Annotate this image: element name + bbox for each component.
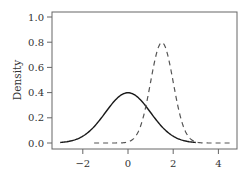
plot-frame [52, 12, 237, 149]
y-tick-label: 0.6 [28, 62, 44, 73]
x-axis: −2024 [75, 149, 221, 169]
x-tick-label: 0 [125, 158, 131, 169]
y-tick-label: 0.8 [28, 37, 44, 48]
y-axis-title: Density [11, 60, 23, 100]
density-chart: 0.00.20.40.60.81.0 −2024 Density [0, 0, 250, 178]
x-tick-label: −2 [75, 158, 90, 169]
series-layer [60, 42, 230, 143]
dashed-density-curve [94, 42, 230, 143]
y-axis: 0.00.20.40.60.81.0 [28, 12, 52, 149]
y-tick-label: 1.0 [28, 12, 44, 23]
y-tick-label: 0.4 [28, 87, 44, 98]
x-tick-label: 2 [170, 158, 176, 169]
y-tick-label: 0.0 [28, 138, 44, 149]
x-tick-label: 4 [215, 158, 221, 169]
y-tick-label: 0.2 [28, 112, 44, 123]
solid-density-curve [60, 93, 196, 143]
